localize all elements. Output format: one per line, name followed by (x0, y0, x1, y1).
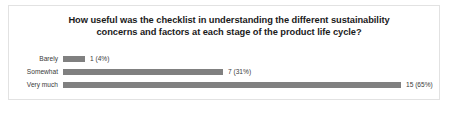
bar-row-barely: Barely 1 (4%) (9, 52, 440, 65)
category-label-very-much: Very much (9, 78, 58, 91)
bar-track-barely: 1 (4%) (63, 52, 440, 65)
screenshot-root: How useful was the checklist in understa… (0, 0, 452, 113)
chart-title-line-2: concerns and factors at each stage of th… (55, 26, 403, 38)
chart-title-line-1: How useful was the checklist in understa… (55, 14, 403, 26)
bar-row-somewhat: Somewhat 7 (31%) (9, 65, 440, 78)
bar-value-barely: 1 (4%) (90, 52, 109, 65)
bar-value-very-much: 15 (65%) (406, 78, 433, 91)
bar-row-very-much: Very much 15 (65%) (9, 78, 440, 91)
bar-value-somewhat: 7 (31%) (228, 65, 251, 78)
chart-title: How useful was the checklist in understa… (55, 14, 403, 38)
bar-track-very-much: 15 (65%) (63, 78, 440, 91)
bar-somewhat (63, 69, 223, 75)
category-label-barely: Barely (9, 52, 58, 65)
bar-chart-plot-area: Barely 1 (4%) Somewhat 7 (31%) Very much… (9, 50, 440, 98)
category-label-somewhat: Somewhat (9, 65, 58, 78)
bar-barely (63, 56, 85, 62)
bar-very-much (63, 82, 401, 88)
chart-card: How useful was the checklist in understa… (8, 5, 440, 100)
bar-track-somewhat: 7 (31%) (63, 65, 440, 78)
